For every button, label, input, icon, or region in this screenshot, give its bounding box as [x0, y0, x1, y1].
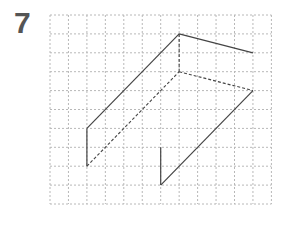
hidden-dashed-edges	[87, 34, 253, 166]
isometric-figure-diagram	[0, 0, 287, 226]
